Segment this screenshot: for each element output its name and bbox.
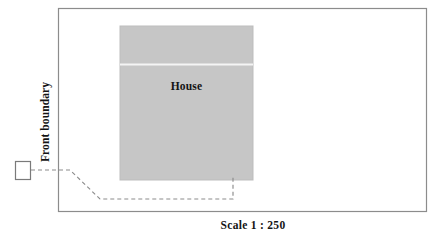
house-footprint-rect [120,26,253,180]
site-plan-diagram: House Front boundary Scale 1 : 250 [0,0,443,237]
front-boundary-label: Front boundary [39,82,51,162]
site-plan-canvas [0,0,443,237]
house-label: House [120,80,253,92]
gate-box-rect [16,162,31,180]
scale-label: Scale 1 : 250 [153,219,353,231]
